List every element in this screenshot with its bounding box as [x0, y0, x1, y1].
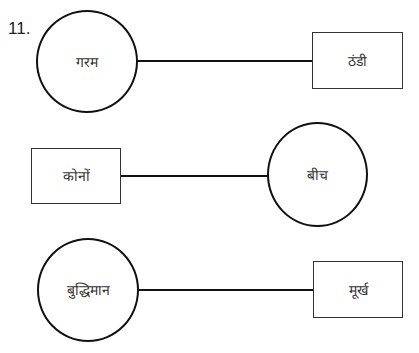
pair-2-connector-line [120, 175, 268, 177]
pair-2-right-label: बीच [307, 168, 328, 182]
pair-1-connector-line [137, 60, 313, 62]
pair-1-right-box: ठंडी [312, 32, 403, 89]
pair-3-connector-line [137, 289, 314, 291]
pair-1-left-circle: गरम [36, 10, 138, 113]
pair-2-left-box: कोनों [31, 148, 121, 204]
pair-3-right-box: मूर्ख [313, 261, 403, 318]
pair-3-right-label: मूर्ख [349, 283, 368, 297]
question-number: 11. [8, 19, 30, 39]
pair-3-left-circle: बुद्धिमान [37, 238, 139, 342]
pair-1-left-label: गरम [76, 55, 98, 69]
pair-1-right-label: ठंडी [348, 54, 367, 68]
pair-2-left-label: कोनों [63, 169, 90, 183]
pair-2-right-circle: बीच [267, 122, 368, 227]
pair-3-left-label: बुद्धिमान [67, 283, 110, 297]
